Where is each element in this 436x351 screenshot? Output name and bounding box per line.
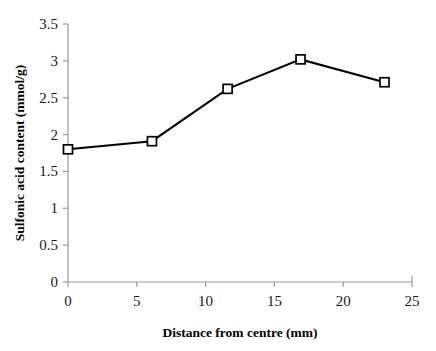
x-tick-label: 0 bbox=[64, 293, 72, 309]
x-tick-label: 10 bbox=[198, 293, 213, 309]
data-point-marker bbox=[64, 145, 73, 154]
line-chart: 00.511.522.533.5 0510152025 Distance fro… bbox=[0, 0, 436, 351]
x-tick-label: 5 bbox=[133, 293, 141, 309]
data-point-marker bbox=[380, 78, 389, 87]
data-point-marker bbox=[223, 84, 232, 93]
y-tick-label: 2.5 bbox=[39, 90, 58, 106]
y-tick-label: 3 bbox=[51, 53, 59, 69]
y-tick-label: 1.5 bbox=[39, 163, 58, 179]
data-point-marker bbox=[296, 55, 305, 64]
y-axis-title: Sulfonic acid content (mmol/g) bbox=[12, 65, 27, 242]
y-tick-label: 0.5 bbox=[39, 237, 58, 253]
x-axis-title: Distance from centre (mm) bbox=[162, 325, 317, 340]
x-tick-label: 20 bbox=[336, 293, 351, 309]
chart-figure: 00.511.522.533.5 0510152025 Distance fro… bbox=[0, 0, 436, 351]
y-tick-label: 3.5 bbox=[39, 16, 58, 32]
x-tick-label: 25 bbox=[405, 293, 420, 309]
y-tick-label: 1 bbox=[51, 200, 59, 216]
y-tick-label: 0 bbox=[51, 274, 59, 290]
data-point-marker bbox=[147, 137, 156, 146]
x-tick-label: 15 bbox=[267, 293, 282, 309]
y-tick-label: 2 bbox=[51, 127, 59, 143]
